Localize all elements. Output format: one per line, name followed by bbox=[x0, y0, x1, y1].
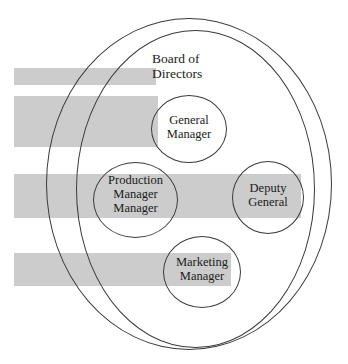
board-of-directors-label-line2: Directors bbox=[152, 66, 202, 81]
deputy-general-label-line2: General bbox=[232, 195, 304, 209]
general-manager-label-line2: Manager bbox=[151, 127, 227, 141]
diagram-canvas: Board of Directors General Manager Produ… bbox=[0, 0, 348, 364]
deputy-general-label-line1: Deputy bbox=[232, 181, 304, 195]
production-manager-label-line3: Manager bbox=[93, 201, 178, 215]
general-manager-label-line1: General bbox=[151, 113, 227, 127]
marketing-manager-label: Marketing Manager bbox=[163, 255, 241, 283]
production-manager-label: Production Manager Manager bbox=[93, 173, 178, 215]
production-manager-label-line1: Production bbox=[93, 173, 178, 187]
general-manager-label: General Manager bbox=[151, 113, 227, 141]
board-of-directors-label-line1: Board of bbox=[152, 51, 202, 66]
marketing-manager-label-line2: Manager bbox=[163, 269, 241, 283]
marketing-manager-label-line1: Marketing bbox=[163, 255, 241, 269]
board-of-directors-label: Board of Directors bbox=[152, 51, 202, 81]
deputy-general-label: Deputy General bbox=[232, 181, 304, 209]
production-manager-label-line2: Manager bbox=[93, 187, 178, 201]
